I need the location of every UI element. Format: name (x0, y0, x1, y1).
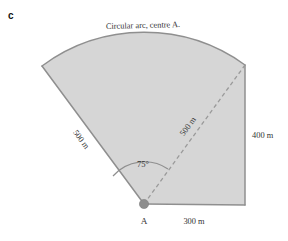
bottom-side-label: 300 m (183, 217, 205, 226)
vertex-a-label: A (141, 216, 148, 226)
figure-container: c Circular arc, centre A. 500 m 500 m 40… (0, 0, 288, 241)
left-radius-label: 500 m (71, 128, 91, 151)
right-side-label: 400 m (252, 131, 274, 140)
part-letter: c (8, 10, 14, 21)
geometry-diagram: Circular arc, centre A. 500 m 500 m 400 … (0, 0, 288, 241)
bottom-side-line (144, 204, 245, 205)
angle-label: 75° (137, 159, 150, 169)
shaded-region-fill (42, 32, 245, 205)
arc-caption-label: Circular arc, centre A. (106, 20, 180, 31)
vertex-a-marker (139, 199, 148, 208)
